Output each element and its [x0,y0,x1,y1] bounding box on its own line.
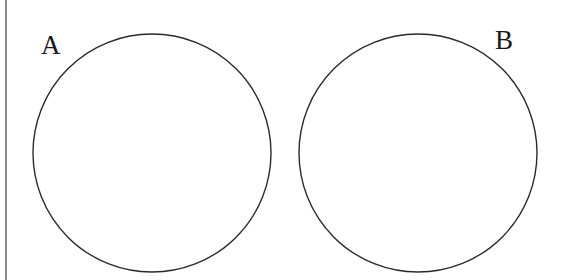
set-b-label: B [495,27,513,54]
set-a-label: A [41,32,61,59]
set-a-circle [33,34,271,272]
venn-diagram-canvas: A B [0,0,570,280]
venn-diagram-svg [0,0,570,280]
set-b-circle [299,34,537,272]
